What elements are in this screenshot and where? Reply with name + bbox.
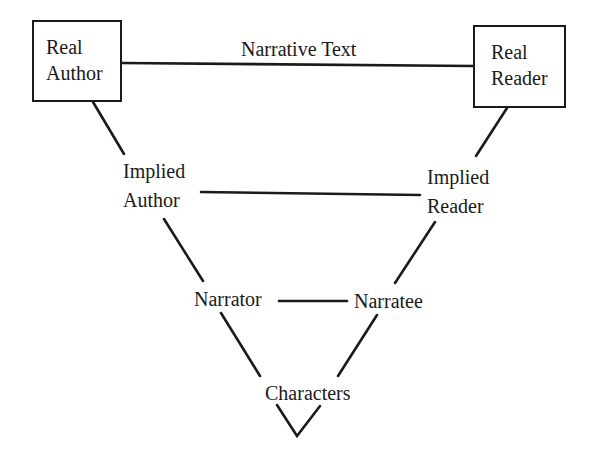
real-reader-line2: Reader (491, 65, 548, 91)
edge-real-reader-implied-reader (476, 108, 507, 156)
node-real-author: Real Author (32, 20, 122, 102)
real-author-line2: Author (46, 60, 103, 86)
edge-real-author-implied-author (93, 102, 124, 154)
edge-implied-author-implied-reader (201, 192, 420, 195)
edge-narratee-characters (338, 315, 377, 376)
implied-author-line2: Author (123, 186, 185, 215)
implied-reader-line1: Implied (427, 163, 489, 192)
real-reader-line1: Real (491, 39, 548, 65)
edge-narrator-characters (221, 313, 260, 376)
node-real-reader: Real Reader (473, 25, 566, 108)
real-author-line1: Real (46, 34, 103, 60)
narrative-communication-diagram: Real Author Narrative Text Real Reader I… (0, 0, 594, 462)
edge-implied-author-narrator (164, 219, 203, 281)
narrative-text-label: Narrative Text (241, 36, 356, 62)
characters-vertex-mark (277, 405, 320, 436)
edge-narrative-text (121, 63, 473, 66)
node-implied-author: Implied Author (123, 157, 185, 215)
node-narrator: Narrator (194, 286, 262, 312)
edge-implied-reader-narratee (395, 222, 435, 283)
implied-author-line1: Implied (123, 157, 185, 186)
node-implied-reader: Implied Reader (427, 163, 489, 221)
node-narratee: Narratee (354, 288, 423, 314)
node-characters: Characters (265, 380, 351, 406)
implied-reader-line2: Reader (427, 192, 489, 221)
